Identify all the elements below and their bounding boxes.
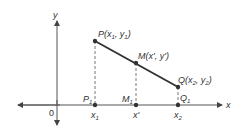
origin-label: 0 (49, 108, 54, 118)
midpoint-diagram: y x 0 P(x1, y1) M(x', y') Q(x2, y2) P1 M… (0, 0, 239, 131)
x2-tick-label: x2 (173, 110, 183, 121)
y-axis-label: y (52, 10, 58, 20)
point-p-label: P(x1, y1) (98, 29, 131, 40)
x1-tick-label: x1 (90, 110, 99, 121)
point-m-label: M(x', y') (138, 51, 169, 61)
point-q1 (176, 103, 180, 107)
point-m (134, 61, 138, 65)
q1-label: Q1 (180, 93, 190, 104)
x-axis-label: x (225, 100, 231, 110)
m1-label: M1 (122, 94, 133, 105)
point-p (93, 39, 97, 43)
xprime-tick-label: x' (132, 110, 140, 120)
point-q (176, 85, 180, 89)
point-q-label: Q(x2, y2) (178, 75, 212, 86)
point-m1 (134, 103, 138, 107)
point-p1 (93, 103, 97, 107)
p1-label: P1 (83, 94, 92, 105)
